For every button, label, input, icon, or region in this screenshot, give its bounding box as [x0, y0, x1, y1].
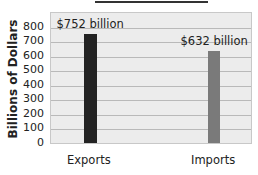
y-tick-label: 100	[14, 122, 44, 134]
y-tick-label: 600	[14, 50, 44, 62]
gridline	[51, 100, 251, 101]
x-tick-label: Imports	[191, 153, 235, 167]
y-tick-label: 500	[14, 64, 44, 76]
bar-exports	[84, 34, 97, 143]
y-tick-label: 700	[14, 35, 44, 47]
title-rule	[95, 1, 208, 3]
x-tick-label: Exports	[67, 153, 111, 167]
gridline	[51, 115, 251, 116]
y-tick-label: 300	[14, 93, 44, 105]
plot-area: $752 billion$632 billion	[50, 12, 252, 144]
y-tick-label: 0	[14, 137, 44, 149]
y-tick-label: 800	[14, 21, 44, 33]
y-tick-label: 200	[14, 108, 44, 120]
bar-imports	[208, 51, 220, 143]
gridline	[51, 57, 251, 58]
gridline	[51, 71, 251, 72]
y-tick-label: 400	[14, 79, 44, 91]
gridline	[51, 129, 251, 130]
data-label-imports: $632 billion	[181, 34, 248, 48]
gridline	[51, 86, 251, 87]
data-label-exports: $752 billion	[57, 17, 124, 31]
